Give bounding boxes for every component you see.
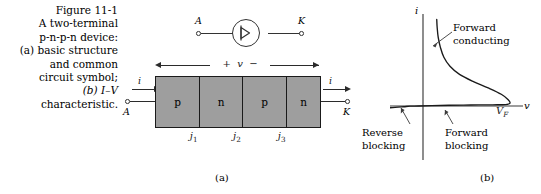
layer-n2: n [287,77,320,127]
current-label-cathode: i [329,75,332,86]
junction-subscript: 2 [236,135,241,144]
device-label-cathode: K [343,106,350,117]
axis-label-voltage: v [524,100,530,111]
pnpn-device-body: p n p n [155,76,321,128]
layer-label: n [218,96,225,108]
device-lead-cathode [320,101,346,102]
device-lead-anode [130,101,156,102]
layer-label: p [261,96,268,108]
symbol-terminal-anode [196,31,201,36]
voltage-arrow-left [155,62,161,68]
axis-label-current: i [415,5,418,16]
panel-a-structure-and-symbol: A K + v − i i A K p n p n [120,0,385,194]
current-arrow-shaft [323,89,347,90]
tick-label-breakover-voltage: VF [496,105,508,119]
junction-label-j2: j2 [233,130,241,144]
caption-line: Figure 11-1 [0,4,118,17]
layer-n1: n [200,77,243,127]
current-arrow-head [345,86,351,92]
voltage-label: + v − [210,58,270,69]
caption-line: characteristic. [0,98,118,111]
annotation-forward-blocking: Forward blocking [445,127,488,152]
annotation-forward-conducting: Forward conducting [453,22,510,47]
thyristor-diode-symbol-icon [232,19,260,47]
junction-subscript: 3 [281,135,286,144]
voltage-arrow-right [313,62,319,68]
current-arrow-cathode: i [323,78,353,94]
voltage-annotation: + v − [155,58,321,72]
layer-p1: p [156,77,200,127]
caption-line: p-n-p-n device: [0,31,118,44]
layer-label: p [174,96,181,108]
device-label-anode: A [123,106,130,117]
layer-label: n [300,96,307,108]
junction-subscript: 1 [193,135,198,144]
device-terminal-anode [125,99,130,104]
panel-b-iv-characteristic: i v VF Forward conducting Reverse blocki… [390,0,541,194]
layer-p2: p [243,77,287,127]
device-terminal-cathode [345,99,350,104]
caption-line: and common [0,58,118,71]
symbol-terminal-cathode [299,31,304,36]
sublabel-a: (a) [215,172,229,183]
caption-line: (b) I–V [0,84,118,97]
caption-line: A two-terminal [0,17,118,30]
annotation-reverse-blocking: Reverse blocking [362,127,405,152]
current-label-anode: i [138,75,141,86]
symbol-label-anode: A [195,15,202,26]
current-arrow-shaft [132,89,156,90]
caption-line: (a) basic structure [0,44,118,57]
sublabel-b: (b) [480,172,494,183]
symbol-lead-anode [201,33,233,34]
symbol-lead-cathode [268,33,300,34]
circuit-symbol: A K [120,8,385,52]
junction-label-j3: j3 [278,130,286,144]
junction-label-j1: j1 [190,130,198,144]
symbol-label-cathode: K [298,15,305,26]
figure-caption: Figure 11-1 A two-terminal p-n-p-n devic… [0,4,118,111]
breakover-subscript: F [503,110,508,119]
caption-line: circuit symbol; [0,71,118,84]
junction-labels: j1 j2 j3 [155,130,321,146]
